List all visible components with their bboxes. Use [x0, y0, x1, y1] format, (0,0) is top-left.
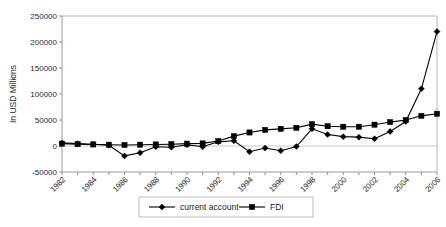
data-point-FDI — [122, 142, 127, 147]
data-point-FDI — [278, 126, 283, 131]
line-chart: -50000050000100000150000200000250000In U… — [0, 0, 446, 227]
data-point-FDI — [138, 142, 143, 147]
x-tick-label: 1982 — [48, 175, 67, 194]
data-point-current-account — [418, 86, 424, 92]
y-tick-label: 200000 — [30, 38, 57, 47]
data-point-FDI — [153, 142, 158, 147]
x-tick-label: 2000 — [330, 175, 349, 194]
legend-label-1: FDI — [270, 202, 284, 212]
data-point-FDI — [434, 111, 439, 116]
data-point-FDI — [372, 122, 377, 127]
x-tick-label: 1992 — [205, 175, 224, 194]
data-point-FDI — [169, 142, 174, 147]
x-tick-label: 1994 — [236, 175, 255, 194]
x-tick-label: 1988 — [142, 175, 161, 194]
data-point-current-account — [372, 136, 378, 142]
data-point-FDI — [216, 138, 221, 143]
y-tick-label: -50000 — [32, 168, 57, 177]
x-tick-label: 1986 — [111, 175, 130, 194]
data-point-FDI — [106, 142, 111, 147]
x-tick-label: 2006 — [423, 175, 442, 194]
data-point-FDI — [75, 142, 80, 147]
data-point-FDI — [388, 119, 393, 124]
data-point-FDI — [309, 122, 314, 127]
data-point-FDI — [231, 134, 236, 139]
series-line-FDI — [62, 114, 437, 145]
series-line-current-account — [62, 32, 437, 156]
y-axis-title: In USD Millions — [8, 65, 18, 123]
data-point-current-account — [434, 29, 440, 35]
data-point-FDI — [184, 141, 189, 146]
legend-label-0: current account — [180, 202, 239, 212]
y-tick-label: 250000 — [30, 12, 57, 21]
data-point-FDI — [59, 141, 64, 146]
y-tick-label: 0 — [53, 142, 58, 151]
data-point-current-account — [340, 134, 346, 140]
data-point-FDI — [419, 113, 424, 118]
y-tick-label: 50000 — [35, 116, 58, 125]
x-tick-label: 1984 — [80, 175, 99, 194]
data-point-current-account — [325, 132, 331, 138]
data-point-FDI — [247, 130, 252, 135]
data-point-FDI — [403, 117, 408, 122]
data-point-FDI — [200, 141, 205, 146]
data-point-current-account — [356, 134, 362, 140]
data-point-FDI — [356, 124, 361, 129]
legend-square-icon — [249, 204, 254, 209]
y-tick-label: 100000 — [30, 90, 57, 99]
y-tick-label: 150000 — [30, 64, 57, 73]
data-point-current-account — [122, 153, 128, 159]
data-point-FDI — [294, 125, 299, 130]
data-point-FDI — [325, 124, 330, 129]
data-point-current-account — [278, 148, 284, 154]
data-point-FDI — [341, 124, 346, 129]
x-tick-label: 2002 — [361, 175, 380, 194]
x-tick-label: 1990 — [173, 175, 192, 194]
x-tick-label: 1996 — [267, 175, 286, 194]
x-tick-label: 1998 — [298, 175, 317, 194]
x-tick-label: 2004 — [392, 175, 411, 194]
data-point-current-account — [387, 128, 393, 134]
data-point-FDI — [91, 142, 96, 147]
data-point-current-account — [137, 150, 143, 156]
chart-container: -50000050000100000150000200000250000In U… — [0, 0, 446, 227]
data-point-FDI — [263, 127, 268, 132]
